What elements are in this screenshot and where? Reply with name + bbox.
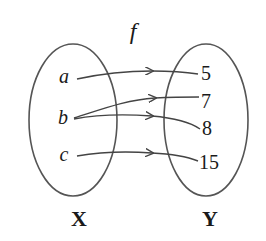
arrow-a-to-5-tail	[152, 71, 198, 74]
function-mapping-diagram: f a b c 5 7 8 15 X Y	[0, 0, 266, 241]
domain-element-b: b	[58, 106, 68, 128]
codomain-set-name: Y	[202, 206, 218, 231]
codomain-element-15: 15	[199, 151, 219, 173]
arrow-c-to-15-tail	[152, 153, 198, 161]
codomain-element-8: 8	[202, 117, 212, 139]
domain-set-name: X	[71, 206, 87, 231]
arrow-b-to-8-tail	[152, 116, 200, 129]
arrow-c-to-15	[77, 152, 152, 156]
domain-set-ellipse	[29, 44, 117, 196]
domain-element-c: c	[60, 143, 69, 165]
arrow-b-to-8	[74, 115, 152, 119]
mapping-arrows	[74, 71, 200, 161]
arrow-a-to-5	[77, 71, 152, 79]
codomain-element-7: 7	[201, 90, 211, 112]
function-label: f	[130, 18, 140, 44]
arrow-b-to-7-tail	[155, 97, 199, 98]
codomain-element-5: 5	[201, 62, 211, 84]
domain-element-a: a	[59, 65, 69, 87]
